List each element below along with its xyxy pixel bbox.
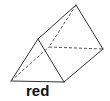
edge-top-ridge <box>38 5 76 39</box>
triangular-prism-figure: red <box>0 0 110 101</box>
edge-bottom-right <box>64 49 103 82</box>
edge-back-right <box>76 5 103 49</box>
edge-hidden-back-bottom <box>49 47 103 49</box>
edge-front-right <box>38 39 64 82</box>
prism-label: red <box>26 83 66 99</box>
